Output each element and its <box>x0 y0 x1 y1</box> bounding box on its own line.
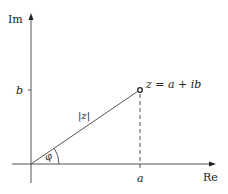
angle-label: φ <box>43 150 54 163</box>
point-label: z = a + ib <box>145 78 201 91</box>
complex-plane-diagram: Im Re b a z = a + ib |z| φ <box>0 0 228 194</box>
point-z <box>138 88 143 93</box>
modulus-label: |z| <box>78 110 90 122</box>
b-tick-label: b <box>16 84 23 97</box>
re-axis-label: Re <box>203 171 218 184</box>
im-axis-label: Im <box>8 13 23 26</box>
real-axis-arrow-icon <box>209 162 216 167</box>
a-tick-label: a <box>137 172 144 185</box>
imaginary-axis-arrow-icon <box>29 13 34 20</box>
angle-arc <box>54 148 59 164</box>
